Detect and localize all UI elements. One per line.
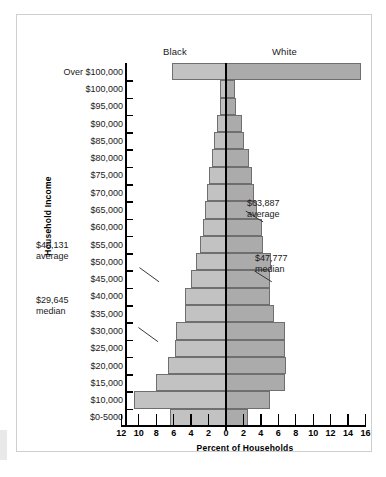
bar-black	[185, 305, 226, 322]
bar-black	[175, 340, 226, 357]
bar-black	[196, 253, 226, 270]
y-axis-tick-label: $70,000	[41, 187, 123, 199]
bar-black	[185, 288, 226, 305]
y-axis-tick-label: $20,000	[41, 360, 123, 372]
bar-white	[226, 322, 285, 339]
y-axis-tick-label: $15,000	[41, 377, 123, 389]
bar-row	[125, 167, 364, 184]
bar-white	[226, 149, 249, 166]
y-axis-tick-label: $75,000	[41, 169, 123, 181]
x-axis-line	[121, 425, 365, 427]
x-axis-tick	[365, 414, 366, 425]
bar-row	[125, 98, 364, 115]
y-axis-tick-label: $45,000	[41, 273, 123, 285]
chart-figure: Black White Household Income Over $100,0…	[16, 14, 372, 452]
annotation-kind: median	[255, 264, 288, 275]
bar-white	[226, 374, 285, 391]
bar-white	[226, 132, 244, 149]
y-axis-tick-label: Over $100,000	[41, 66, 123, 78]
bar-white	[226, 409, 248, 426]
bar-white	[226, 391, 270, 408]
bar-black	[176, 322, 226, 339]
bar-white	[226, 167, 252, 184]
x-axis-tick	[173, 414, 174, 425]
x-axis-tick	[208, 414, 209, 425]
x-axis-title: Percent of Households	[125, 443, 365, 453]
bar-row	[125, 288, 364, 305]
bar-row	[125, 253, 364, 270]
x-axis-tick	[156, 414, 157, 425]
bar-white	[226, 357, 286, 374]
bar-row	[125, 357, 364, 374]
annotation-value: $29,645	[36, 295, 69, 305]
bar-black	[172, 63, 226, 80]
bar-black	[207, 184, 226, 201]
bar-black	[205, 201, 226, 218]
annotation-value: $47,777	[255, 253, 288, 263]
annotation-value: $63,887	[247, 198, 280, 208]
annotation-black-average: $40,131 average	[36, 240, 69, 261]
annotation-white-average: $63,887 average	[247, 198, 280, 219]
bar-row	[125, 391, 364, 408]
bar-row	[125, 270, 364, 287]
y-axis-tick-label: $60,000	[41, 221, 123, 233]
annotation-black-median: $29,645 median	[36, 295, 69, 316]
bar-black	[134, 391, 226, 408]
annotation-white-median: $47,777 median	[255, 253, 288, 274]
bar-row	[125, 63, 364, 80]
bar-row	[125, 374, 364, 391]
x-axis-tick	[347, 414, 348, 425]
bar-white	[226, 63, 361, 80]
bar-black	[191, 270, 226, 287]
bar-black	[156, 374, 226, 391]
y-axis-tick-label: $25,000	[41, 342, 123, 354]
bar-row	[125, 149, 364, 166]
x-axis-tick	[138, 414, 139, 425]
bar-black	[209, 167, 226, 184]
bar-white	[226, 219, 262, 236]
x-axis-tick	[330, 414, 331, 425]
x-axis-tick	[278, 414, 279, 425]
bar-row	[125, 322, 364, 339]
x-axis-tick-label: 16	[356, 428, 376, 438]
bar-black	[200, 236, 226, 253]
y-axis-tick-label: $0-5000	[41, 411, 123, 423]
bar-row	[125, 305, 364, 322]
bar-white	[226, 80, 235, 97]
y-axis-tick-label: $65,000	[41, 204, 123, 216]
bar-row	[125, 184, 364, 201]
x-axis-tick	[260, 414, 261, 425]
zero-axis-line	[225, 63, 228, 430]
series-label-black: Black	[163, 46, 187, 57]
page-edge-sliver	[0, 430, 7, 460]
annotation-kind: average	[247, 209, 280, 220]
bar-black	[170, 409, 226, 426]
bar-row	[125, 236, 364, 253]
x-axis-tick	[190, 414, 191, 425]
y-axis-tick-label: $100,000	[41, 83, 123, 95]
y-axis-tick-label: $85,000	[41, 135, 123, 147]
bar-row	[125, 219, 364, 236]
y-axis-tick-label: $80,000	[41, 152, 123, 164]
annotation-value: $40,131	[36, 240, 69, 250]
y-axis-tick-label: $90,000	[41, 118, 123, 130]
annotation-kind: median	[36, 306, 69, 317]
y-axis-tick-label: $10,000	[41, 394, 123, 406]
bar-black	[168, 357, 226, 374]
bar-white	[226, 115, 242, 132]
plot-area	[125, 63, 364, 426]
bar-white	[226, 340, 285, 357]
y-axis-tick-label: $95,000	[41, 100, 123, 112]
x-axis-tick	[295, 414, 296, 425]
bar-row	[125, 340, 364, 357]
bar-black	[203, 219, 226, 236]
bar-row	[125, 80, 364, 97]
y-axis-tick-label: $30,000	[41, 325, 123, 337]
annotation-kind: average	[36, 251, 69, 262]
bar-white	[226, 305, 274, 322]
bar-white	[226, 98, 236, 115]
bar-row	[125, 132, 364, 149]
x-axis-tick	[121, 414, 122, 425]
x-axis-tick	[313, 414, 314, 425]
bar-white	[226, 288, 270, 305]
